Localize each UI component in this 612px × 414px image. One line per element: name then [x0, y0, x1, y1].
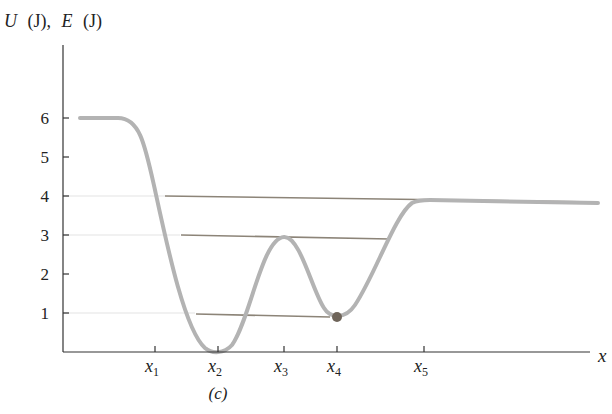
x-axis-label: x — [597, 345, 607, 366]
particle-dot — [332, 312, 342, 322]
potential-energy-diagram: 6 5 4 3 2 1 U (J), E (J) x1 x2 x3 x4 x5 … — [0, 0, 612, 414]
x-tick-2: x2 — [207, 356, 222, 379]
energy-line-1 — [196, 314, 330, 317]
x-tick-5: x5 — [413, 356, 428, 379]
y-tick-5: 5 — [41, 148, 50, 167]
y-tick-1: 1 — [41, 304, 50, 323]
y-tick-labels: 6 5 4 3 2 1 — [41, 109, 50, 323]
x-tick-1: x1 — [144, 356, 159, 379]
y-label-E: E — [61, 11, 73, 31]
x-tick-labels: x1 x2 x3 x4 x5 — [144, 356, 428, 379]
x-tick-3: x3 — [273, 356, 288, 379]
y-tick-2: 2 — [41, 265, 50, 284]
x-tick-4: x4 — [326, 356, 341, 379]
guide-lines — [63, 196, 195, 313]
y-tick-6: 6 — [41, 109, 50, 128]
y-label-unit1: (J), — [28, 11, 52, 32]
y-label-U: U — [4, 11, 18, 31]
y-axis-label: U (J), E (J) — [4, 11, 102, 32]
figure-caption: (c) — [209, 384, 228, 403]
y-label-unit2: (J) — [83, 11, 102, 32]
y-tick-4: 4 — [41, 187, 50, 206]
y-tick-3: 3 — [41, 226, 50, 245]
